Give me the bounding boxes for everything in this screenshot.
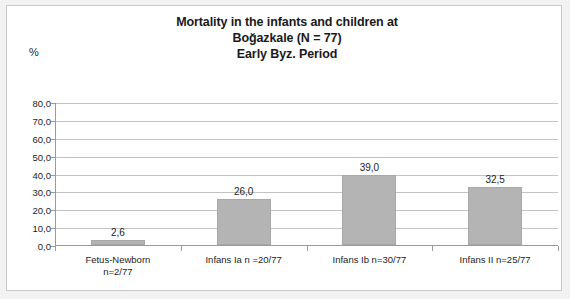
x-tick-mark bbox=[55, 246, 56, 251]
x-category-label-1: Infans Ia n =20/77 bbox=[181, 254, 307, 266]
chart-title-line-2: Boğazkale (N = 77) bbox=[67, 30, 507, 46]
chart-title-line-3: Early Byz. Period bbox=[67, 46, 507, 62]
chart-screenshot: Mortality in the infants and children at… bbox=[0, 0, 570, 299]
y-tick-mark bbox=[51, 175, 55, 176]
x-tick-mark bbox=[432, 246, 433, 251]
y-tick-label: 0,0 bbox=[15, 241, 51, 252]
x-category-label-2: Infans Ib n=30/77 bbox=[307, 254, 433, 266]
bar-value-label: 26,0 bbox=[234, 186, 253, 197]
plot-area: 2,6 26,0 39,0 32,5 bbox=[55, 103, 558, 246]
gridline bbox=[55, 139, 558, 140]
bar-infans-ib[interactable] bbox=[342, 175, 396, 245]
bar-infans-ii[interactable] bbox=[468, 187, 522, 245]
x-category-line: Infans II n=25/77 bbox=[432, 254, 558, 266]
y-tick-mark bbox=[51, 157, 55, 158]
x-tick-mark bbox=[181, 246, 182, 251]
y-tick-mark bbox=[51, 103, 55, 104]
chart-frame: Mortality in the infants and children at… bbox=[6, 5, 562, 291]
y-tick-label: 20,0 bbox=[15, 205, 51, 216]
bar-fetus-newborn[interactable] bbox=[91, 240, 145, 245]
y-tick-mark bbox=[51, 139, 55, 140]
x-category-label-3: Infans II n=25/77 bbox=[432, 254, 558, 266]
x-category-line: Infans Ib n=30/77 bbox=[307, 254, 433, 266]
x-tick-mark bbox=[558, 246, 559, 251]
y-axis-tick-labels: 80,0 70,0 60,0 50,0 40,0 30,0 20,0 10,0 … bbox=[15, 103, 51, 246]
y-tick-label: 80,0 bbox=[15, 98, 51, 109]
y-tick-mark bbox=[51, 192, 55, 193]
x-category-line: n=2/77 bbox=[55, 266, 181, 278]
y-tick-mark bbox=[51, 210, 55, 211]
y-tick-label: 60,0 bbox=[15, 133, 51, 144]
y-tick-label: 40,0 bbox=[15, 169, 51, 180]
y-tick-label: 70,0 bbox=[15, 115, 51, 126]
x-category-line: Fetus-Newborn bbox=[55, 254, 181, 266]
gridline bbox=[55, 121, 558, 122]
gridline bbox=[55, 175, 558, 176]
x-category-line: Infans Ia n =20/77 bbox=[181, 254, 307, 266]
chart-title: Mortality in the infants and children at… bbox=[67, 14, 507, 62]
y-axis-line bbox=[55, 103, 56, 246]
gridline bbox=[55, 157, 558, 158]
bar-infans-ia[interactable] bbox=[217, 199, 271, 245]
y-tick-label: 50,0 bbox=[15, 151, 51, 162]
chart-title-line-1: Mortality in the infants and children at bbox=[67, 14, 507, 30]
x-tick-mark bbox=[307, 246, 308, 251]
y-tick-label: 10,0 bbox=[15, 223, 51, 234]
y-tick-mark bbox=[51, 121, 55, 122]
x-axis-category-labels: Fetus-Newborn n=2/77 Infans Ia n =20/77 … bbox=[55, 254, 558, 290]
bar-value-label: 2,6 bbox=[111, 227, 125, 238]
y-axis-unit-label: % bbox=[29, 46, 39, 58]
y-tick-mark bbox=[51, 228, 55, 229]
x-category-label-0: Fetus-Newborn n=2/77 bbox=[55, 254, 181, 278]
bar-value-label: 32,5 bbox=[485, 174, 504, 185]
gridline bbox=[55, 103, 558, 104]
y-tick-label: 30,0 bbox=[15, 187, 51, 198]
bar-value-label: 39,0 bbox=[360, 162, 379, 173]
